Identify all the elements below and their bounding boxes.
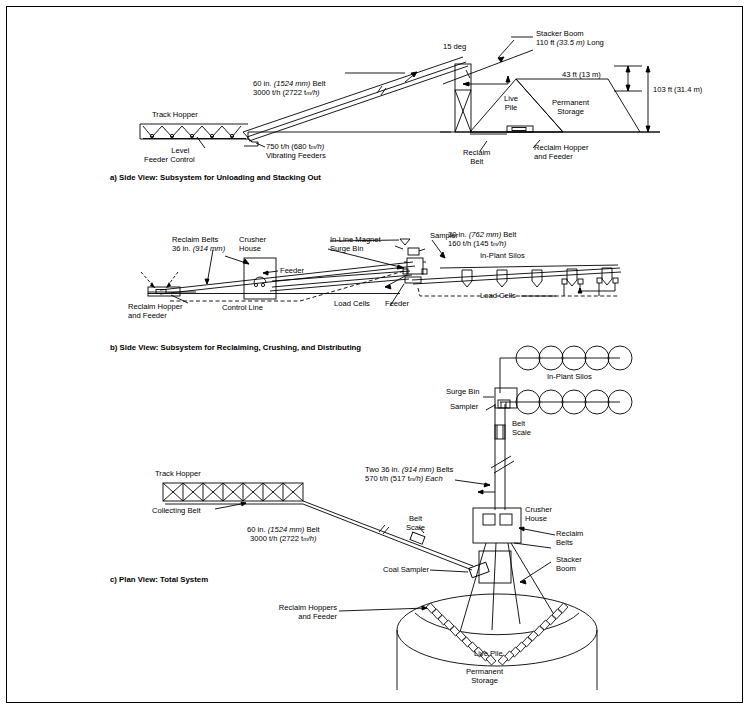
label-reclaim-hopper-a: Reclaim Hopper and Feeder [534, 144, 588, 162]
label-and-feeder-c: and Feeder [252, 613, 337, 622]
label-track-hopper-c: Track Hopper [155, 470, 201, 479]
label-crusher-house-b: Crusher House [239, 236, 266, 254]
label-belt-rate-b: 160 t/h (145 tm/h) [448, 240, 516, 249]
label-scale-c: Scale [406, 524, 425, 533]
label-vibrating-feeders-text: Vibrating Feeders [266, 152, 326, 161]
label-belt-30in-b: 30 in. (762 mm) Belt 160 t/h (145 tm/h) [448, 231, 516, 249]
label-belt-rate-a: 3000 t/h (2722 tm/h) [253, 89, 326, 98]
label-crusher-house-c: Crusher House [525, 506, 552, 524]
caption-a: a) Side View: Subsystem for Unloading an… [110, 173, 321, 182]
label-sampler-c: Sampler [450, 403, 478, 412]
label-feeder-control: Feeder Control [144, 156, 195, 165]
label-in-plant-silos-b: In-Plant Silos [480, 252, 525, 261]
label-live-pile-c: Live Pile [474, 650, 503, 659]
label-belt-rate-c: 3000 t/h (2722 tm/h) [247, 535, 320, 544]
label-storage-c: Storage [466, 677, 503, 686]
label-dim-43ft: 43 ft (13 m) [562, 71, 601, 80]
label-live-pile-a: Live Pile [504, 95, 518, 113]
label-stacker-boom-a: Stacker Boom 110 ft (33.5 m) Long [536, 30, 604, 48]
label-belt-scale2-c: Belt Scale [512, 420, 531, 438]
label-feeder-left-b: Feeder [280, 267, 304, 276]
label-reclaim-belts-b: Reclaim Belts 36 in. (914 mm) [172, 236, 225, 254]
label-reclaim-belt-a: Reclaim Belt [463, 149, 490, 167]
label-dim-103ft: 103 ft (31.4 m) [653, 86, 702, 95]
label-reclaim-hopper-b: Reclaim Hopper and Feeder [128, 303, 182, 321]
label-load-cells-right-b: Load Cells [480, 292, 516, 301]
label-house-c: House [525, 515, 552, 524]
label-belt-scale-c: Belt Scale [406, 515, 425, 533]
label-coal-sampler-c: Coal Sampler [383, 566, 429, 575]
label-surge-bin-c: Surge Bin [446, 388, 479, 397]
label-belt-60in-c: 60 in. (1524 mm) Belt 3000 t/h (2722 tm/… [247, 526, 320, 544]
label-belt-60in-a: 60 in. (1524 mm) Belt 3000 t/h (2722 tm/… [253, 80, 326, 98]
label-reclaim-belts-size-b: 36 in. (914 mm) [172, 245, 225, 254]
label-belt-a: Belt [463, 158, 490, 167]
label-reclaim-belts-c: Reclaim Belts [556, 530, 583, 548]
label-stacker-boom-c: Stacker Boom [556, 556, 582, 574]
label-two-belts-rate-c: 570 t/h (517 tm/h) Each [365, 475, 453, 484]
label-track-hopper-a: Track Hopper [152, 111, 198, 120]
label-collecting-belt-c: Collecting Belt [152, 507, 201, 516]
label-control-line-b: Control Line [222, 304, 263, 313]
label-in-plant-silos-c: In-Plant Silos [547, 373, 592, 382]
label-stacker-boom-len-a: 110 ft (33.5 m) Long [536, 39, 604, 48]
diagram-page: Track Hopper Level Feeder Control 750 t/… [0, 0, 751, 711]
label-storage-a: Storage [552, 108, 589, 117]
label-surge-bin-b: Surge Bin [330, 245, 363, 254]
label-permanent-storage-a: Permanent Storage [552, 99, 589, 117]
page-border [6, 6, 743, 703]
caption-c: c) Plan View: Total System [110, 575, 208, 584]
label-vibrating-feeders: 750 t/h (680 tm/h) Vibrating Feeders [266, 143, 326, 161]
label-house-b: House [239, 245, 266, 254]
label-boom-c: Boom [556, 565, 582, 574]
label-pile-a: Pile [504, 104, 518, 113]
label-scale2-c: Scale [512, 429, 531, 438]
caption-b: b) Side View: Subsystem for Reclaiming, … [110, 343, 361, 352]
label-feeder-right-b: Feeder [385, 300, 409, 309]
label-and-feeder-a: and Feeder [534, 153, 588, 162]
label-15-deg: 15 deg [443, 43, 466, 52]
label-load-cells-left-b: Load Cells [334, 300, 370, 309]
label-two-belts-c: Two 36 in. (914 mm) Belts 570 t/h (517 t… [365, 466, 453, 484]
label-and-feeder-b: and Feeder [128, 312, 182, 321]
label-belts-c: Belts [556, 539, 583, 548]
label-level-feeder-control: Level Feeder Control [166, 147, 195, 165]
label-permanent-storage-c: Permanent Storage [466, 668, 503, 686]
